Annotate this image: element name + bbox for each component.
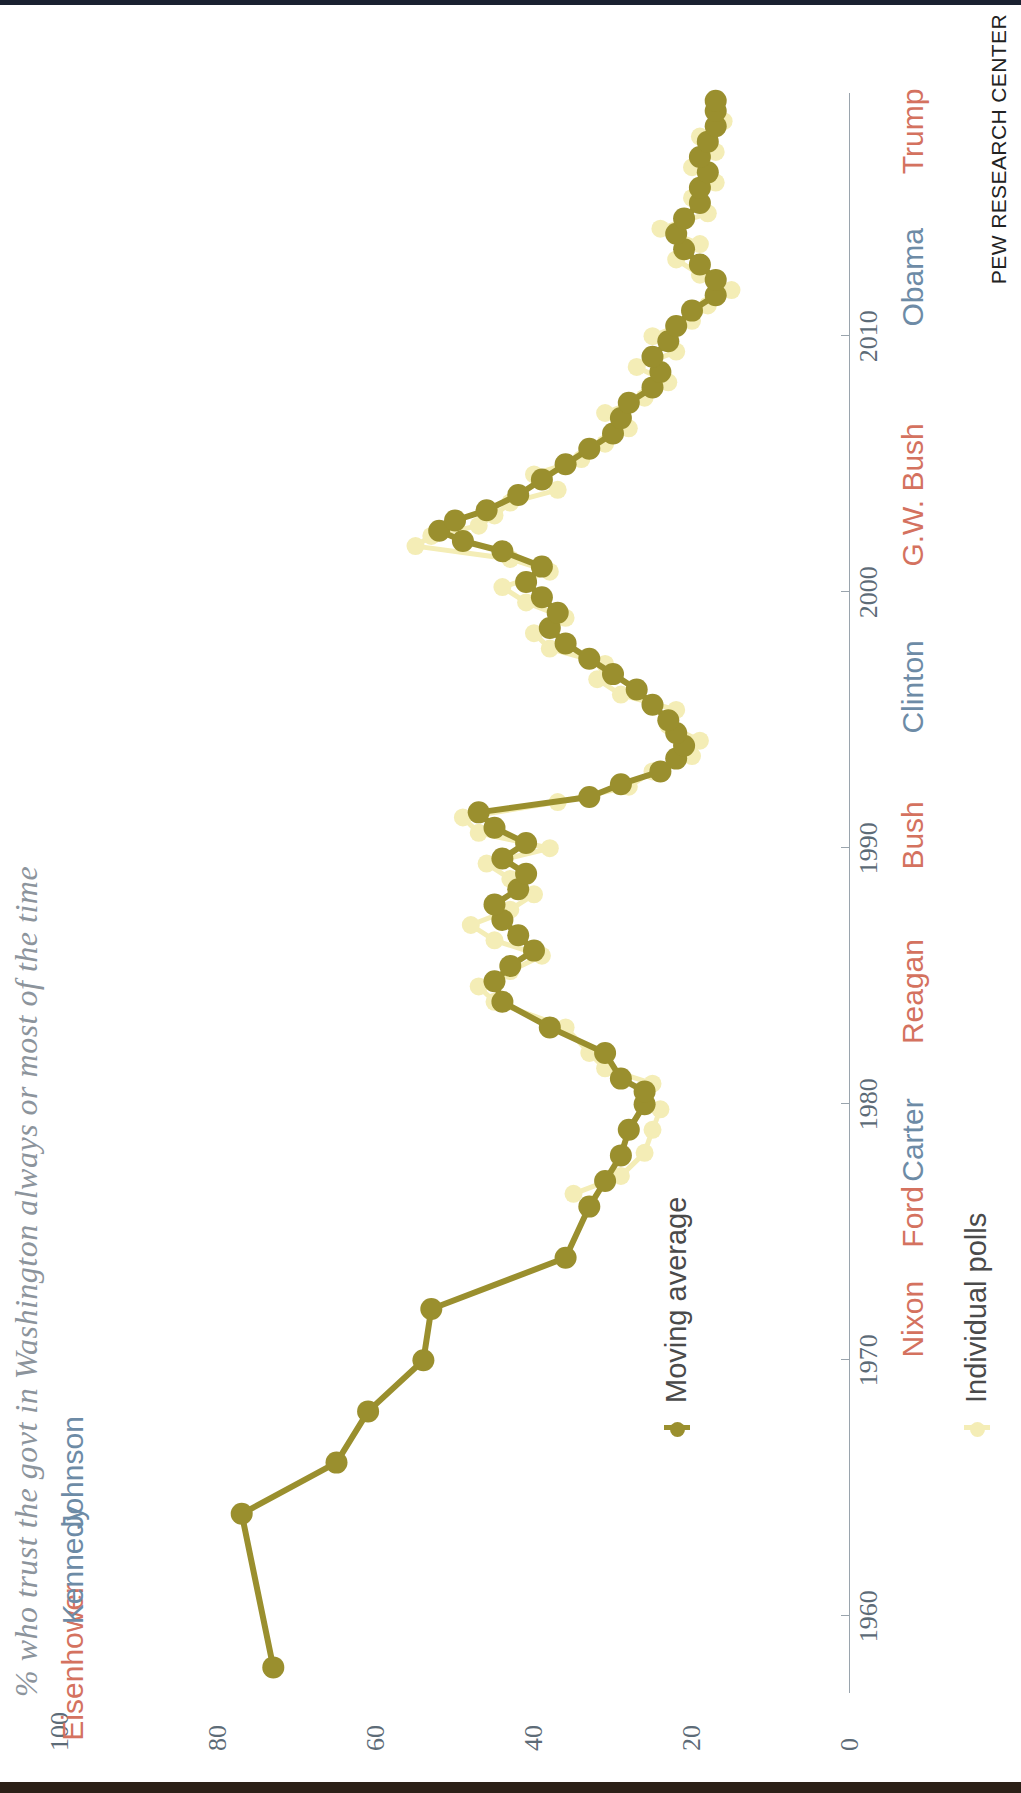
x-tick-label: 1990 xyxy=(854,822,884,874)
scan-edge-strip xyxy=(0,1782,1021,1793)
individual-polls-marker-icon xyxy=(964,1411,990,1445)
y-tick-label: 20 xyxy=(677,1725,707,1751)
x-tick xyxy=(841,1103,850,1104)
x-tick xyxy=(841,1359,850,1360)
x-tick-label: 1980 xyxy=(854,1078,884,1130)
chart-plot-area: 196019701980199020002010 020406080100 Ei… xyxy=(60,93,850,1693)
president-label-nixon: Nixon xyxy=(896,1281,930,1358)
scan-edge-strip-secondary xyxy=(0,0,1021,5)
x-tick-label: 2000 xyxy=(854,566,884,618)
y-tick-label: 60 xyxy=(361,1725,391,1751)
president-label-g-w-bush: G.W. Bush xyxy=(896,423,930,566)
x-tick xyxy=(841,335,850,336)
president-label-obama: Obama xyxy=(896,228,930,326)
president-label-johnson: Johnson xyxy=(56,1416,90,1529)
source-attribution: PEW RESEARCH CENTER xyxy=(987,14,1011,284)
legend-label-moving-average: Moving average xyxy=(660,1197,692,1403)
x-tick-label: 2010 xyxy=(854,310,884,362)
x-tick xyxy=(841,591,850,592)
y-tick-label: 40 xyxy=(519,1725,549,1751)
president-label-reagan: Reagan xyxy=(896,939,930,1044)
x-tick-label: 1960 xyxy=(854,1590,884,1642)
x-tick xyxy=(841,847,850,848)
president-label-clinton: Clinton xyxy=(896,640,930,733)
rotated-figure-canvas: % who trust the govt in Washington alway… xyxy=(0,0,1021,1793)
president-label-trump: Trump xyxy=(896,89,930,175)
moving-average-marker-icon xyxy=(664,1411,690,1445)
x-axis-line xyxy=(849,93,850,1693)
president-label-carter: Carter xyxy=(896,1098,930,1181)
y-tick-label: 0 xyxy=(835,1738,865,1751)
legend-item-moving-average[interactable]: Moving average xyxy=(660,1197,693,1445)
chart-title: % who trust the govt in Washington alway… xyxy=(8,866,45,1697)
president-label-ford: Ford xyxy=(896,1186,930,1248)
y-tick-label: 80 xyxy=(203,1725,233,1751)
legend-label-individual-polls: Individual polls xyxy=(960,1213,992,1403)
x-tick-label: 1970 xyxy=(854,1334,884,1386)
chart-svg xyxy=(60,93,850,1693)
legend-item-individual-polls[interactable]: Individual polls xyxy=(960,1213,993,1445)
x-tick xyxy=(841,1615,850,1616)
president-label-bush: Bush xyxy=(896,801,930,869)
